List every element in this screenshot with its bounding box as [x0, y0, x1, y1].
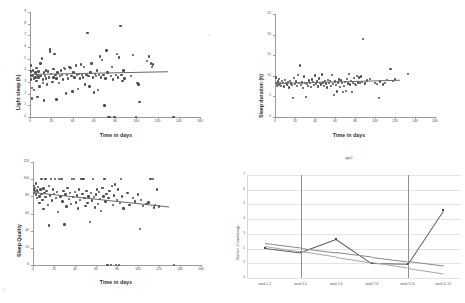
- chart1-y-tick: [28, 12, 30, 13]
- chart1-data-point: [62, 78, 64, 80]
- chart4-series-segment: [407, 268, 443, 275]
- chart1-data-point: [151, 66, 153, 68]
- chart3-x-axis-title: Time in days: [0, 279, 232, 285]
- chart2-y-tick: [273, 35, 275, 36]
- chart3-data-point: [54, 178, 56, 180]
- chart1-data-point: [46, 83, 48, 85]
- chart4-gridline: [247, 234, 461, 235]
- chart2-x-axis-title: Time in days: [233, 132, 465, 138]
- chart2-data-point: [321, 73, 323, 75]
- chart1-data-point: [75, 64, 77, 66]
- chart4-reference-line: [301, 175, 302, 278]
- chart3-data-point: [77, 207, 79, 209]
- chart4-x-tick-label: week 1-2: [248, 283, 282, 286]
- chart1-plot-area: 0123456789020406080100120140160: [30, 12, 200, 117]
- chart2-data-point: [351, 91, 353, 93]
- chart3-y-tick: [31, 248, 33, 249]
- chart3-y-tick: [31, 162, 33, 163]
- chart1-data-point: [35, 67, 37, 69]
- chart2-data-point: [303, 75, 305, 77]
- chart3-data-point: [153, 206, 155, 208]
- chart3-data-point: [89, 221, 91, 223]
- chart3-data-point: [94, 206, 96, 208]
- chart2-y-tick: [273, 14, 275, 15]
- chart2-data-point: [318, 77, 320, 79]
- chart3-data-point: [105, 193, 107, 195]
- chart3-data-point: [137, 193, 139, 195]
- chart4-y-tick-label: 2: [235, 247, 245, 250]
- chart3-data-point: [108, 190, 110, 192]
- chart4-plot-area: 01234567week 1-2week 3-4week 5-6week 7-8…: [247, 175, 461, 278]
- chart4-y-tick-label: 3: [235, 232, 245, 235]
- chart1-x-tick-label: 160: [192, 120, 208, 123]
- chart2-data-point: [345, 90, 347, 92]
- chart1-data-point: [82, 76, 84, 78]
- chart3-data-point: [85, 190, 87, 192]
- chart1-data-point: [105, 49, 107, 51]
- chart2-data-point: [310, 86, 312, 88]
- chart1-data-point: [86, 32, 88, 34]
- chart2-x-tick-label: 160: [427, 120, 443, 123]
- chart1-data-point: [73, 76, 75, 78]
- chart1-data-point: [130, 75, 132, 77]
- chart1-data-point: [55, 77, 57, 79]
- chart2-data-point: [343, 85, 345, 87]
- chart3-data-point: [122, 207, 124, 209]
- chart2-data-point: [407, 73, 409, 75]
- chart3-y-tick: [31, 214, 33, 215]
- chart2-plot-area: 0510152025020406080100120140160: [275, 14, 435, 117]
- chart2-data-point: [284, 79, 286, 81]
- chart1-x-tick-label: 100: [128, 120, 144, 123]
- chart1-data-point: [120, 74, 122, 76]
- chart1-data-point: [36, 96, 38, 98]
- chart3-data-point: [38, 195, 40, 197]
- chart1-x-tick-label: 40: [65, 120, 81, 123]
- chart2-data-point: [280, 85, 282, 87]
- chart1-y-tick-label: 1: [13, 103, 26, 106]
- scan-artifact-2: [208, 34, 211, 36]
- chart3-data-point: [44, 196, 46, 198]
- chart2-data-point: [326, 86, 328, 88]
- chart1-y-tick-label: 3: [13, 80, 26, 83]
- chart2-data-point: [288, 86, 290, 88]
- chart1-y-tick-label: 2: [13, 92, 26, 95]
- chart3-y-tick-label: 0: [16, 263, 29, 266]
- chart1-data-point: [101, 59, 103, 61]
- chart2-data-point: [293, 77, 295, 79]
- chart2-y-tick-label: 20: [258, 33, 271, 36]
- chart1-data-point: [52, 68, 54, 70]
- chart1-data-point: [92, 76, 94, 78]
- chart3-data-point: [79, 199, 81, 201]
- chart3-data-point: [139, 228, 141, 230]
- chart1-data-point: [64, 68, 66, 70]
- chart3-data-point: [128, 204, 130, 206]
- chart4-y-tick-label: 1: [235, 261, 245, 264]
- chart2-y-tick-label: 25: [258, 12, 271, 15]
- chart2-x-tick-label: 60: [327, 120, 343, 123]
- chart3-data-point: [50, 178, 52, 180]
- chart-panel-sleep-quality: Sleep Quality Time in days 0204060801001…: [0, 152, 232, 303]
- chart1-data-point: [43, 99, 45, 101]
- chart1-data-point: [148, 55, 150, 57]
- chart2-data-point: [305, 96, 307, 98]
- chart2-data-point: [342, 91, 344, 93]
- scan-artifact-1: [2, 288, 6, 291]
- chart3-data-point: [101, 187, 103, 189]
- chart4-gridline: [247, 278, 461, 279]
- chart2-data-point: [325, 82, 327, 84]
- chart1-data-point: [103, 104, 105, 106]
- chart3-data-point: [40, 178, 42, 180]
- chart1-data-point: [96, 69, 98, 71]
- chart3-data-point: [51, 199, 53, 201]
- chart1-data-point: [152, 63, 154, 65]
- chart2-data-point: [299, 64, 301, 66]
- chart2-data-point: [378, 97, 380, 99]
- chart1-x-tick-label: 80: [107, 120, 123, 123]
- chart1-data-point: [118, 56, 120, 58]
- chart3-y-axis: [33, 162, 34, 265]
- chart3-data-point: [48, 185, 50, 187]
- chart3-data-point: [110, 264, 112, 266]
- chart4-x-tick-label: week 9-10: [391, 283, 425, 286]
- chart3-data-point: [118, 264, 120, 266]
- chart3-data-point: [112, 204, 114, 206]
